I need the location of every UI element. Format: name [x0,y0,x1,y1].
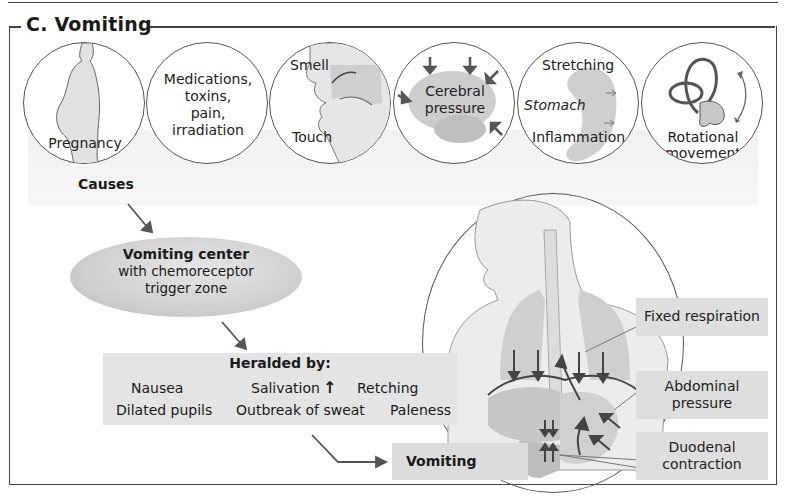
symptom-dilated-pupils: Dilated pupils [116,402,212,418]
label-abdominal-pressure: Abdominal pressure [636,371,768,419]
symptom-salivation: Salivation [251,380,320,396]
mechanism-label: Fixed respiration [644,308,760,324]
symptom-retching: Retching [357,380,418,396]
mechanism-label: pressure [636,395,768,412]
mechanism-label: Abdominal [636,378,768,395]
label-duodenal-contraction: Duodenal contraction [636,432,768,480]
symptom-sweat: Outbreak of sweat [236,402,365,418]
diagram-arrows-and-anatomy [0,0,785,500]
label-fixed-respiration: Fixed respiration [636,298,768,336]
heralded-by-title: Heralded by: [103,355,457,371]
increase-arrow-icon: ↑ [323,378,336,397]
mechanism-label: Duodenal [636,439,768,456]
mechanism-label: contraction [636,456,768,473]
symptom-paleness: Paleness [390,402,451,418]
vomiting-outcome-label: Vomiting [406,453,477,469]
symptom-nausea: Nausea [131,380,183,396]
